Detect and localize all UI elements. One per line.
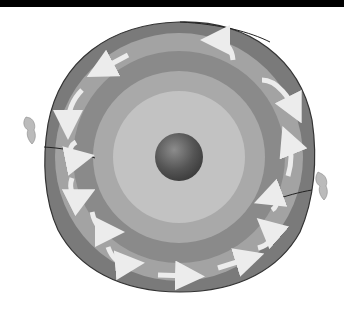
arrow-icon: [158, 275, 190, 276]
core-sphere: [155, 133, 203, 181]
eruption-plume-right: [316, 172, 327, 200]
earth-interior-diagram: [0, 0, 344, 316]
eruption-plume-left: [24, 117, 35, 144]
